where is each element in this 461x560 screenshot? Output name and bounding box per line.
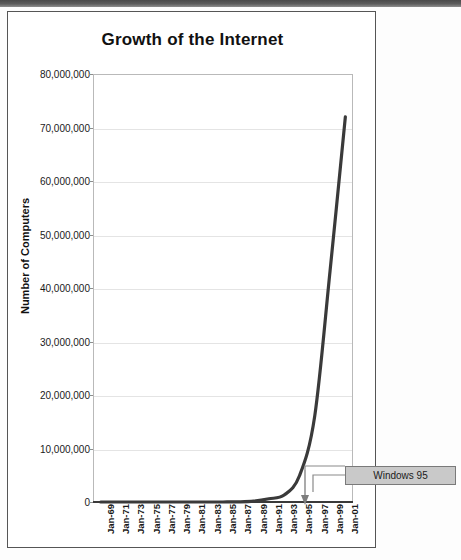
annotation-arrow-head [301, 495, 309, 505]
callout-leader-line [313, 475, 345, 492]
annotation-callout-windows-95[interactable]: Windows 95 [345, 466, 456, 485]
annotation-callout-label: Windows 95 [373, 470, 427, 481]
annotation-bracket [305, 466, 345, 470]
